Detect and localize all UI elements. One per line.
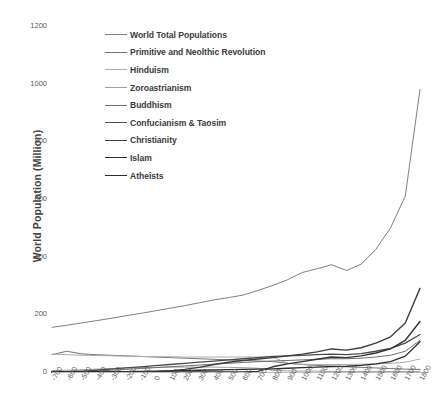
legend-item[interactable]: Buddhism bbox=[105, 96, 335, 114]
legend-line-swatch bbox=[105, 122, 127, 123]
legend-line-swatch bbox=[105, 140, 127, 141]
chart-legend: World Total PopulationsPrimitive and Neo… bbox=[105, 26, 335, 184]
legend-item[interactable]: Primitive and Neolthic Revolution bbox=[105, 44, 335, 62]
legend-line-swatch bbox=[105, 34, 127, 35]
legend-item-label: Atheists bbox=[130, 171, 164, 181]
legend-line-swatch bbox=[105, 69, 127, 70]
legend-item[interactable]: Confucianism & Taosim bbox=[105, 114, 335, 132]
legend-item[interactable]: Atheists bbox=[105, 167, 335, 185]
legend-item-label: Christianity bbox=[130, 135, 177, 145]
legend-item-label: World Total Populations bbox=[130, 30, 227, 40]
legend-item[interactable]: Zoroastrianism bbox=[105, 79, 335, 97]
legend-line-swatch bbox=[105, 175, 127, 176]
legend-line-swatch bbox=[105, 87, 127, 88]
legend-item-label: Primitive and Neolthic Revolution bbox=[130, 47, 265, 57]
legend-item[interactable]: Hinduism bbox=[105, 61, 335, 79]
legend-item-label: Islam bbox=[130, 153, 152, 163]
legend-item-label: Hinduism bbox=[130, 65, 169, 75]
legend-item[interactable]: World Total Populations bbox=[105, 26, 335, 44]
population-line-chart: World Population (Million) 0200400600800… bbox=[0, 0, 436, 418]
legend-line-swatch bbox=[105, 157, 127, 158]
legend-line-swatch bbox=[105, 105, 127, 106]
legend-item-label: Confucianism & Taosim bbox=[130, 118, 226, 128]
legend-item-label: Zoroastrianism bbox=[130, 83, 191, 93]
legend-item[interactable]: Islam bbox=[105, 149, 335, 167]
legend-item[interactable]: Christianity bbox=[105, 132, 335, 150]
series-line bbox=[52, 351, 420, 369]
legend-line-swatch bbox=[105, 52, 127, 53]
legend-item-label: Buddhism bbox=[130, 100, 172, 110]
series-line bbox=[52, 335, 420, 372]
